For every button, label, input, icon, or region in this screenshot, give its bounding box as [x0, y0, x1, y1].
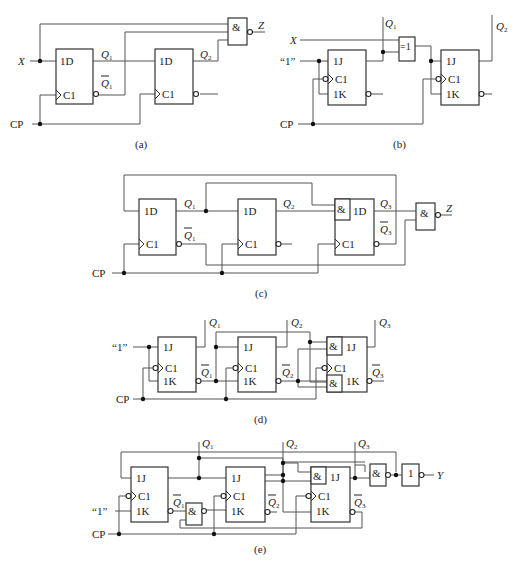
svg-text:&: & — [232, 21, 241, 33]
svg-text:1K: 1K — [231, 505, 245, 517]
svg-text:CP: CP — [280, 118, 293, 130]
svg-text:Y: Y — [437, 469, 445, 481]
svg-text:Q2: Q2 — [496, 20, 508, 34]
svg-text:1D: 1D — [353, 205, 367, 217]
svg-text:1J: 1J — [346, 341, 357, 353]
svg-text:1J: 1J — [333, 55, 344, 67]
svg-text:CP: CP — [92, 267, 105, 279]
svg-text:Z: Z — [258, 19, 265, 31]
svg-text:1K: 1K — [243, 375, 257, 387]
svg-text:C1: C1 — [162, 88, 175, 100]
svg-text:Q3: Q3 — [379, 316, 391, 330]
svg-text:Q2: Q2 — [282, 366, 294, 380]
svg-text:Q1: Q1 — [173, 496, 185, 510]
svg-text:Q2: Q2 — [286, 437, 298, 451]
svg-text:C1: C1 — [146, 238, 159, 250]
svg-text:C1: C1 — [448, 73, 461, 85]
svg-text:&: & — [329, 340, 338, 352]
svg-text:Q1: Q1 — [101, 77, 113, 91]
svg-text:=1: =1 — [400, 41, 411, 52]
svg-text:&: & — [313, 470, 322, 482]
svg-text:Q1: Q1 — [209, 316, 221, 330]
svg-text:Q1: Q1 — [201, 366, 213, 380]
svg-text:C1: C1 — [165, 362, 178, 374]
svg-text:1D: 1D — [243, 205, 257, 217]
svg-text:Q1: Q1 — [385, 17, 397, 31]
svg-text:CP: CP — [116, 393, 129, 405]
svg-text:C1: C1 — [233, 490, 246, 502]
svg-text:C1: C1 — [334, 362, 347, 374]
svg-text:1: 1 — [408, 467, 414, 479]
svg-text:&: & — [337, 203, 346, 215]
svg-text:Z: Z — [446, 202, 453, 214]
svg-text:Q2: Q2 — [200, 48, 212, 62]
svg-text:C1: C1 — [335, 73, 348, 85]
svg-text:X: X — [17, 55, 26, 67]
svg-text:Q3: Q3 — [354, 496, 366, 510]
circuit-d: 1J C1 1K 1J C1 1K & 1J C1 & 1K “1” CP Q1… — [112, 316, 391, 426]
svg-text:1K: 1K — [333, 88, 347, 100]
svg-text:Q1: Q1 — [202, 437, 214, 451]
svg-text:“1”: “1” — [92, 505, 107, 517]
svg-text:1K: 1K — [446, 88, 460, 100]
svg-text:C1: C1 — [138, 490, 151, 502]
svg-text:1K: 1K — [136, 505, 150, 517]
svg-text:(d): (d) — [254, 413, 267, 426]
svg-text:Q2: Q2 — [268, 496, 280, 510]
svg-text:1J: 1J — [243, 341, 254, 353]
svg-text:1J: 1J — [136, 472, 147, 484]
svg-text:1D: 1D — [60, 55, 74, 67]
svg-text:Q1: Q1 — [184, 197, 196, 211]
svg-text:1J: 1J — [231, 472, 242, 484]
svg-text:C1: C1 — [245, 362, 258, 374]
svg-text:&: & — [372, 467, 381, 479]
svg-text:(b): (b) — [393, 138, 406, 151]
svg-text:“1”: “1” — [280, 55, 295, 67]
svg-text:C1: C1 — [318, 490, 331, 502]
svg-text:(c): (c) — [255, 287, 268, 300]
svg-text:Q3: Q3 — [358, 437, 370, 451]
svg-text:Q3: Q3 — [380, 223, 392, 237]
svg-text:1J: 1J — [163, 341, 174, 353]
svg-text:1D: 1D — [159, 55, 173, 67]
svg-text:Q3: Q3 — [380, 197, 392, 211]
svg-text:Q1: Q1 — [184, 229, 196, 243]
circuit-a: 1D C1 1D C1 & X CP Q1 Q1 Q2 Z (a) — [10, 18, 265, 151]
svg-text:&: & — [329, 377, 338, 389]
svg-text:C1: C1 — [342, 238, 355, 250]
svg-text:CP: CP — [10, 118, 23, 130]
svg-text:“1”: “1” — [112, 341, 127, 353]
svg-text:(e): (e) — [254, 543, 267, 556]
svg-text:1K: 1K — [316, 505, 330, 517]
svg-text:Q2: Q2 — [291, 316, 303, 330]
svg-text:&: & — [188, 505, 197, 517]
svg-text:1J: 1J — [330, 471, 341, 483]
svg-text:(a): (a) — [135, 138, 148, 151]
svg-text:X: X — [289, 34, 298, 46]
svg-text:CP: CP — [92, 528, 105, 540]
svg-text:C1: C1 — [63, 89, 76, 101]
svg-text:Q2: Q2 — [283, 197, 295, 211]
sequential-circuits-figure: 1D C1 1D C1 & X CP Q1 Q1 Q2 Z (a) — [0, 0, 524, 575]
svg-text:1D: 1D — [144, 205, 158, 217]
circuit-c: 1D C1 1D C1 & 1D C1 & CP Q1 Q1 Q2 Q3 Q3 … — [92, 175, 453, 300]
svg-text:1K: 1K — [163, 375, 177, 387]
svg-text:1J: 1J — [446, 55, 457, 67]
circuit-b: 1J C1 1K =1 1J C1 1K X “1” CP Q1 Q2 (b) — [280, 15, 508, 151]
svg-text:1K: 1K — [346, 375, 360, 387]
svg-text:&: & — [420, 207, 429, 219]
svg-text:Q1: Q1 — [101, 48, 113, 62]
svg-text:C1: C1 — [245, 238, 258, 250]
svg-text:Q3: Q3 — [372, 366, 384, 380]
